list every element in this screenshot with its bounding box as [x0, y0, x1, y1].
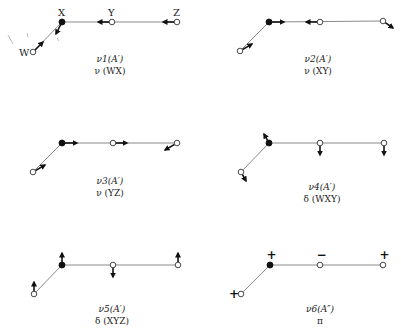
- atom-y: [110, 262, 116, 268]
- modes-container: ν1(A′)ν (WX)ν2(A′)ν (XY)ν3(A′)ν (YZ)ν4(A…: [30, 18, 393, 326]
- displacement-arrow-z: [385, 23, 393, 28]
- atom-label-y: Y: [107, 7, 115, 18]
- mode-description: π: [317, 316, 323, 326]
- atom-z: [381, 140, 387, 146]
- atom-x: [266, 140, 272, 146]
- mode-nu3: ν3(A′)ν (YZ): [30, 140, 180, 198]
- bond-chain: [240, 21, 383, 51]
- vibrational-modes-diagram: X Y Z W ν1(A′)ν (WX)ν2(A′)ν (XY)ν3(A′)ν …: [0, 0, 401, 336]
- atom-w: [30, 49, 36, 55]
- bond-chain: [241, 143, 384, 172]
- phase-sign-w: +: [229, 287, 239, 301]
- bond-chain: [241, 265, 383, 294]
- mode-symbol: ν4(A′): [309, 182, 336, 192]
- phase-sign-x: +: [267, 248, 277, 262]
- mode-description: δ (XYZ): [95, 316, 129, 326]
- displacement-arrow-w: [35, 42, 43, 50]
- atom-y: [109, 19, 115, 25]
- mode-nu5: ν5(A′)δ (XYZ): [31, 253, 181, 326]
- mode-symbol: ν5(A′): [99, 304, 126, 314]
- atom-label-x: X: [58, 7, 66, 18]
- sketch-marks: [8, 33, 59, 44]
- mode-symbol: ν2(A′): [305, 54, 332, 64]
- mode-description: ν (XY): [304, 66, 332, 76]
- mode-description: ν (YZ): [96, 188, 124, 198]
- atom-z: [380, 18, 386, 24]
- atom-y: [317, 140, 323, 146]
- atom-z: [174, 19, 180, 25]
- mode-nu6: ++−+ν6(A″)π: [229, 248, 390, 326]
- atom-w: [238, 169, 244, 175]
- bond-chain: [34, 265, 178, 294]
- atom-w: [30, 169, 36, 175]
- mode-nu2: ν2(A′)ν (XY): [237, 18, 393, 76]
- atom-x: [59, 140, 65, 146]
- atom-x: [266, 19, 272, 25]
- atom-labels: X Y Z W: [19, 7, 180, 58]
- atom-x: [267, 262, 273, 268]
- mode-symbol: ν1(A′): [97, 54, 124, 64]
- mode-nu4: ν4(A′)δ (WXY): [238, 134, 387, 204]
- phase-sign-z: +: [380, 248, 390, 262]
- atom-z: [175, 262, 181, 268]
- mode-symbol: ν6(A″): [306, 304, 335, 314]
- mode-symbol: ν3(A′): [97, 176, 124, 186]
- displacement-arrow-z: [165, 144, 175, 150]
- atom-label-z: Z: [173, 7, 180, 18]
- atom-w: [237, 48, 243, 54]
- atom-z: [174, 140, 180, 146]
- atom-y: [317, 19, 323, 25]
- atom-x: [59, 19, 65, 25]
- phase-sign-y: −: [317, 248, 327, 262]
- atom-label-w: W: [19, 47, 30, 58]
- atom-x: [59, 262, 65, 268]
- atom-y: [110, 140, 116, 146]
- displacement-arrow-w: [242, 174, 246, 181]
- atom-z: [380, 262, 386, 268]
- atom-w: [31, 291, 37, 297]
- atom-y: [317, 262, 323, 268]
- mode-nu1: ν1(A′)ν (WX): [30, 19, 180, 76]
- bond-chain: [33, 143, 177, 172]
- mode-description: δ (WXY): [304, 194, 341, 204]
- displacement-arrow-x: [264, 134, 268, 141]
- bond-chain: [33, 22, 177, 52]
- mode-description: ν (WX): [94, 66, 125, 76]
